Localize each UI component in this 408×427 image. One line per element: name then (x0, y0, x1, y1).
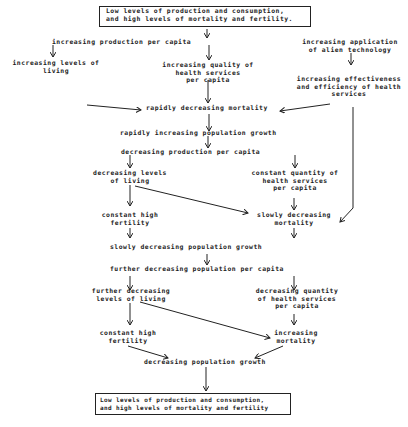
node-increasing-effectiveness: increasing effectiveness and efficiency … (290, 76, 408, 99)
node-increasing-alien-technology: increasing application of alien technolo… (292, 39, 408, 54)
node-increasing-quality-health: increasing quality of health services pe… (148, 62, 268, 85)
node-slowly-decreasing-mortality: slowly decreasing mortality (248, 212, 340, 227)
node-increasing-mortality: increasing mortality (260, 330, 332, 345)
node-decreasing-production: decreasing production per capita (121, 149, 260, 157)
node-rapidly-decreasing-mortality: rapidly decreasing mortality (146, 105, 268, 113)
node-rapidly-increasing-population: rapidly increasing population growth (120, 130, 277, 138)
top-box-line2: and high levels of mortality and fertili… (106, 16, 310, 24)
node-slowly-decreasing-population: slowly decreasing population growth (110, 244, 262, 252)
node-constant-high-fertility-2: constant high fertility (92, 330, 164, 345)
node-decreasing-levels-of-living: decreasing levels of living (84, 170, 176, 185)
node-increasing-production: increasing production per capita (52, 39, 191, 47)
node-constant-high-fertility-1: constant high fertility (94, 212, 166, 227)
node-constant-quantity-health: constant quantity of health services per… (244, 170, 346, 193)
node-further-decreasing-population: further decreasing population per capita (110, 266, 284, 274)
bottom-box-line2: and high levels of mortality and fertili… (100, 404, 290, 412)
node-further-decreasing-levels: further decreasing levels of living (84, 288, 178, 303)
node-increasing-levels-of-living: increasing levels of living (8, 60, 104, 75)
node-decreasing-quantity-health: decreasing quantity of health services p… (248, 288, 346, 311)
node-decreasing-population-growth: decreasing population growth (144, 359, 266, 367)
bottom-box-line1: Low levels of production and consumption… (100, 396, 290, 404)
top-state-box: Low levels of production and consumption… (99, 6, 311, 27)
bottom-state-box: Low levels of production and consumption… (95, 393, 291, 415)
